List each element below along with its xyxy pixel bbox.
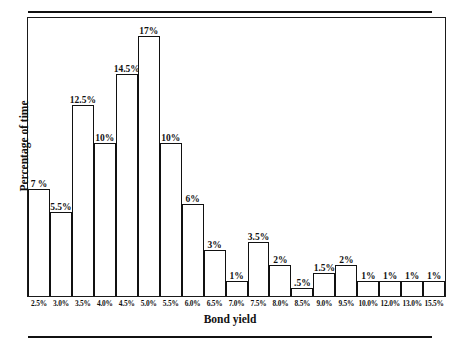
- bar[interactable]: 2%: [335, 265, 357, 296]
- y-axis-title: Percentage of time: [18, 76, 30, 216]
- bar[interactable]: 17%: [138, 36, 160, 296]
- bar-cell: 14.5%: [116, 18, 138, 296]
- bar-cell: 1.5%: [313, 18, 335, 296]
- x-tick-label: 9.0%: [313, 299, 335, 309]
- x-tick-label: 10.0%: [357, 299, 379, 309]
- x-tick-label: 7.0%: [226, 299, 248, 309]
- figure-container: 7 %5.5%12.5%10%14.5%17%10%6%3%1%3.5%2%.5…: [0, 0, 460, 353]
- bar-value-label: 3%: [207, 240, 221, 251]
- x-tick-label: 4.0%: [94, 299, 116, 309]
- x-tick-label: 13.0%: [401, 299, 423, 309]
- bar[interactable]: 12.5%: [72, 105, 94, 296]
- bar[interactable]: 3.5%: [248, 242, 270, 296]
- x-tick-label: 8.5%: [291, 299, 313, 309]
- bar-cell: 6%: [182, 18, 204, 296]
- bar-value-label: 1%: [427, 271, 441, 282]
- bar-cell: 10%: [160, 18, 182, 296]
- page-rule-bottom: [28, 336, 432, 338]
- x-axis-title: Bond yield: [0, 313, 460, 325]
- bar-value-label: 14.5%: [114, 64, 140, 75]
- bar[interactable]: 1%: [226, 281, 248, 296]
- bar[interactable]: 14.5%: [116, 74, 138, 296]
- bar-cell: 1%: [423, 18, 445, 296]
- bar-cell: 5.5%: [50, 18, 72, 296]
- bar-cell: 10%: [94, 18, 116, 296]
- page-rule-top: [28, 11, 432, 13]
- x-tick-label: 15.5%: [423, 299, 445, 309]
- bar-value-label: 1.5%: [314, 263, 335, 274]
- bar[interactable]: 1%: [379, 281, 401, 296]
- bar-value-label: 1%: [229, 271, 243, 282]
- bar-value-label: 10%: [161, 133, 180, 144]
- bar-cell: 2%: [269, 18, 291, 296]
- x-tick-label: 2.5%: [28, 299, 50, 309]
- bar-cell: 1%: [401, 18, 423, 296]
- bar-value-label: 17%: [139, 26, 158, 37]
- bar-cell: 12.5%: [72, 18, 94, 296]
- bar-cell: .5%: [291, 18, 313, 296]
- bar-value-label: 6%: [186, 194, 200, 205]
- x-tick-label: 9.5%: [335, 299, 357, 309]
- bar-value-label: 1%: [361, 271, 375, 282]
- bar[interactable]: 10%: [160, 143, 182, 296]
- bar-cell: 7 %: [28, 18, 50, 296]
- bar-value-label: 12.5%: [70, 95, 96, 106]
- bar-value-label: 3.5%: [248, 232, 269, 243]
- bar-cell: 1%: [226, 18, 248, 296]
- x-tick-label: 7.5%: [248, 299, 270, 309]
- x-tick-label: 5.5%: [160, 299, 182, 309]
- bar[interactable]: 6%: [182, 204, 204, 296]
- x-tick-label: 3.5%: [72, 299, 94, 309]
- bar[interactable]: 7 %: [28, 189, 50, 296]
- bar-value-label: 1%: [405, 271, 419, 282]
- bar-value-label: 10%: [95, 133, 114, 144]
- bar[interactable]: .5%: [291, 288, 313, 296]
- bar-cell: 17%: [138, 18, 160, 296]
- bar-value-label: 2%: [273, 255, 287, 266]
- bar-value-label: 1%: [383, 271, 397, 282]
- bar-cell: 1%: [379, 18, 401, 296]
- bar-cell: 3.5%: [248, 18, 270, 296]
- bar[interactable]: 2%: [269, 265, 291, 296]
- bar[interactable]: 1%: [401, 281, 423, 296]
- x-tick-label: 4.5%: [116, 299, 138, 309]
- x-axis-tick-labels: 2.5%3.0%3.5%4.0%4.5%5.0%5.5%6.0%6.5%7.0%…: [28, 299, 445, 309]
- bar[interactable]: 1%: [423, 281, 445, 296]
- bar[interactable]: 5.5%: [50, 212, 72, 296]
- bar[interactable]: 1%: [357, 281, 379, 296]
- x-tick-label: 8.0%: [269, 299, 291, 309]
- bar[interactable]: 1.5%: [313, 273, 335, 296]
- x-tick-label: 6.0%: [182, 299, 204, 309]
- bar[interactable]: 10%: [94, 143, 116, 296]
- bar-value-label: .5%: [294, 278, 311, 289]
- bar-value-label: 2%: [339, 255, 353, 266]
- bar-cell: 1%: [357, 18, 379, 296]
- bar-cell: 2%: [335, 18, 357, 296]
- x-tick-label: 12.0%: [379, 299, 401, 309]
- bar-cell: 3%: [204, 18, 226, 296]
- bars-group: 7 %5.5%12.5%10%14.5%17%10%6%3%1%3.5%2%.5…: [28, 18, 445, 296]
- x-tick-label: 6.5%: [204, 299, 226, 309]
- x-tick-label: 5.0%: [138, 299, 160, 309]
- bar[interactable]: 3%: [204, 250, 226, 296]
- bar-value-label: 5.5%: [50, 202, 71, 213]
- bar-value-label: 7 %: [31, 179, 48, 190]
- x-tick-label: 3.0%: [50, 299, 72, 309]
